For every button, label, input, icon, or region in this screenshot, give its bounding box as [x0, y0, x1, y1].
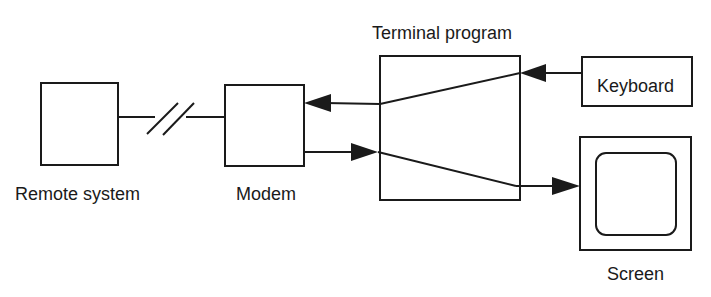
screen-inner-display: [596, 153, 676, 235]
modem-box: [225, 85, 304, 166]
arrowhead-icon: [304, 94, 331, 112]
arrowhead-icon: [351, 143, 378, 161]
edge-terminal-screen: [378, 152, 580, 195]
node-remote-system: Remote system: [15, 83, 140, 204]
remote-system-box: [41, 83, 118, 165]
edge-terminal-modem: [304, 73, 520, 112]
edge-remote-modem: [118, 103, 225, 135]
break-slash-2: [163, 103, 194, 135]
edge-modem-terminal: [304, 143, 378, 161]
node-modem: Modem: [225, 85, 304, 204]
terminal-modem-diagram: Remote system Modem Terminal program Key…: [0, 0, 711, 297]
terminal-program-label: Terminal program: [372, 23, 512, 43]
arrowhead-icon: [552, 177, 580, 195]
keyboard-label: Keyboard: [597, 76, 674, 96]
edge-keyboard-terminal: [520, 64, 582, 82]
node-terminal-program: Terminal program: [372, 23, 520, 200]
screen-label: Screen: [607, 264, 664, 284]
node-screen: Screen: [580, 137, 691, 284]
node-keyboard: Keyboard: [582, 57, 692, 106]
arrowhead-icon: [520, 64, 546, 82]
modem-label: Modem: [236, 184, 296, 204]
break-slash-1: [147, 103, 178, 134]
remote-system-label: Remote system: [15, 184, 140, 204]
